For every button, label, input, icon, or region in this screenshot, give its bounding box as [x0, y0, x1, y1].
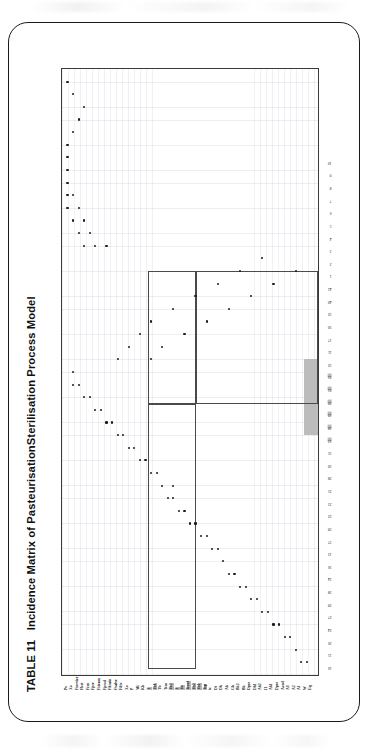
matrix-incidence-dot: [183, 510, 185, 512]
y-tick-label: Fvalve: [115, 679, 119, 690]
matrix-incidence-dot: [222, 560, 224, 562]
table-caption: TABLE 11 Incidence Matrix of Pasteurisat…: [25, 52, 37, 692]
matrix-incidence-dot: [122, 434, 124, 436]
matrix-incidence-dot: [156, 472, 158, 474]
block-lower-band: [196, 271, 318, 404]
x-tick-label: 34: [328, 577, 332, 581]
matrix-incidence-dot: [100, 409, 102, 411]
y-tick-label: Dh1: [254, 683, 258, 690]
matrix-incidence-dot: [78, 384, 80, 386]
matrix-incidence-dot: [117, 358, 119, 360]
x-tick-label: 12: [328, 551, 332, 555]
y-tick-label: W: [304, 686, 308, 690]
matrix-incidence-dot: [105, 421, 107, 423]
x-tick-label: 1: [330, 274, 332, 278]
matrix-incidence-dot: [261, 257, 263, 259]
y-tick-label: Kh: [142, 685, 146, 690]
x-tick-label: 32: [328, 311, 332, 315]
y-tick-label: Tcm: [165, 683, 169, 690]
y-tick-label: Tcool: [187, 681, 191, 690]
y-tick-label: Fcm: [87, 683, 91, 690]
matrix-incidence-dot: [300, 661, 302, 663]
x-tick-label: 17: [328, 337, 332, 341]
matrix-plot-area[interactable]: [61, 68, 319, 676]
y-tick-label: Fprod: [104, 680, 108, 690]
x-tick-label: 30: [328, 463, 332, 467]
matrix-incidence-dot: [105, 245, 107, 247]
matrix-incidence-dot: [72, 371, 74, 373]
matrix-incidence-dot: [94, 245, 96, 247]
x-tick-label: 40: [328, 299, 332, 303]
x-tick-label: 36: [328, 564, 332, 568]
matrix-incidence-dot: [267, 611, 269, 613]
matrix-incidence-dot: [233, 573, 235, 575]
block-upper-right: [148, 271, 195, 404]
y-tick-label: Bh: [243, 685, 247, 690]
matrix-incidence-dot: [228, 308, 230, 310]
matrix-incidence-dot: [183, 333, 185, 335]
matrix-incidence-dot: [89, 232, 91, 234]
column-header-strip: EqWA1A2A3AcoolDpreAh1I1Ah2Dh1DpreBhBh2Gh…: [61, 676, 317, 690]
matrix-incidence-dot: [217, 283, 219, 285]
y-tick-label: Tb2: [193, 683, 197, 690]
y-tick-label: Ah2: [259, 683, 263, 690]
matrix-incidence-dot: [72, 219, 74, 221]
y-tick-label: Eq: [309, 685, 313, 690]
x-tick-label: 28: [328, 476, 332, 480]
matrix-incidence-dot: [66, 169, 68, 171]
y-tick-label: Po: [65, 686, 69, 690]
x-tick-label: 7: [330, 198, 332, 202]
matrix-incidence-dot: [189, 522, 191, 524]
matrix-incidence-dot: [72, 131, 74, 133]
scanned-page: TABLE 11 Incidence Matrix of Pasteurisat…: [0, 0, 375, 756]
x-tick-label: 30: [328, 324, 332, 328]
matrix-incidence-dot: [66, 182, 68, 184]
matrix-incidence-dot: [278, 623, 280, 625]
x-tick-label: 22: [328, 513, 332, 517]
y-tick-label: A3: [287, 685, 291, 690]
matrix-incidence-dot: [289, 636, 291, 638]
matrix-incidence-dot: [83, 396, 85, 398]
y-tick-label: Mi: [137, 685, 141, 690]
x-tick-label: 35: [328, 450, 332, 454]
y-tick-label: T: [176, 687, 180, 690]
y-tick-label: Xo: [126, 685, 130, 690]
y-tick-label: Bh2: [237, 683, 241, 690]
x-tick-label: 31: [328, 375, 332, 379]
matrix-incidence-dot: [89, 396, 91, 398]
matrix-incidence-dot: [284, 636, 286, 638]
y-tick-label: Xo: [70, 685, 74, 690]
matrix-incidence-dot: [78, 207, 80, 209]
x-tick-label: 19: [328, 412, 332, 416]
matrix-incidence-dot: [94, 409, 96, 411]
y-tick-label: A1: [298, 685, 302, 690]
matrix-incidence-dot: [306, 661, 308, 663]
row-header-strip: 1615262427293834361237392223252830351318…: [318, 70, 332, 676]
y-tick-label: Acool: [282, 681, 286, 690]
y-tick-label: Dh: [220, 685, 224, 690]
matrix-incidence-dot: [128, 346, 130, 348]
x-tick-label: 21: [328, 387, 332, 391]
y-tick-label: Th: [181, 685, 185, 690]
y-tick-label: Fservice: [76, 677, 80, 691]
y-tick-label: Fsteam: [98, 678, 102, 690]
matrix-incidence-dot: [111, 421, 113, 423]
y-tick-label: Ah: [226, 685, 230, 690]
x-tick-label: 3: [330, 248, 332, 252]
matrix-incidence-dot: [66, 194, 68, 196]
y-tick-label: Tb: [159, 685, 163, 690]
matrix-incidence-dot: [139, 333, 141, 335]
y-tick-label: Fdiv: [120, 683, 124, 690]
x-tick-label: 16: [328, 665, 332, 669]
matrix-incidence-dot: [295, 649, 297, 651]
matrix-incidence-dot: [178, 510, 180, 512]
x-tick-label: 23: [328, 501, 332, 505]
y-tick-label: P: [131, 688, 135, 690]
matrix-incidence-dot: [78, 232, 80, 234]
matrix-incidence-dot: [144, 459, 146, 461]
x-tick-label: 9: [330, 173, 332, 177]
matrix-incidence-dot: [261, 611, 263, 613]
matrix-incidence-dot: [83, 219, 85, 221]
matrix-incidence-dot: [72, 93, 74, 95]
matrix-incidence-dot: [72, 384, 74, 386]
